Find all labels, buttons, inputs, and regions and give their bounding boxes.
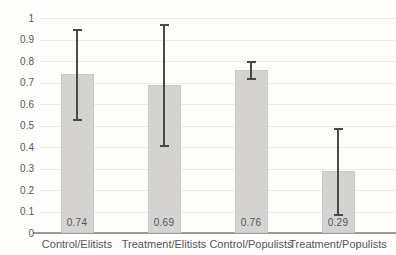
y-tick-label: 0.3 — [0, 163, 34, 174]
bar-chart: 0.740.690.760.29 Control/ElitistsTreatme… — [0, 0, 396, 255]
x-category-label: Control/Populists — [209, 238, 292, 250]
bar-value-label: 0.76 — [241, 217, 262, 228]
y-tick-label: 0.6 — [0, 99, 34, 110]
error-bar-cap-top — [247, 61, 256, 63]
y-tick-label: 1 — [0, 13, 34, 24]
x-category-label: Treatment/Populists — [289, 238, 386, 250]
error-bar-cap-bottom — [247, 78, 256, 80]
y-tick-label: 0.1 — [0, 206, 34, 217]
y-tick-label: 0.7 — [0, 77, 34, 88]
x-category-label: Control/Elitists — [42, 238, 112, 250]
error-bar-cap-top — [160, 24, 169, 26]
bar-value-label: 0.29 — [328, 217, 349, 228]
plot-area: 0.740.690.760.29 — [42, 18, 396, 233]
error-bar-cap-bottom — [73, 119, 82, 121]
gridline — [40, 61, 396, 62]
y-tick-label: 0.5 — [0, 120, 34, 131]
y-tick-label: 0.2 — [0, 185, 34, 196]
gridline — [40, 18, 396, 19]
error-bar — [337, 128, 339, 214]
error-bar-cap-bottom — [334, 214, 343, 216]
y-tick-label: 0.9 — [0, 34, 34, 45]
gridline — [40, 40, 396, 41]
y-tick-label: 0.4 — [0, 142, 34, 153]
error-bar-cap-top — [334, 128, 343, 130]
bar — [235, 70, 268, 233]
bar-value-label: 0.69 — [154, 217, 175, 228]
error-bar — [76, 29, 78, 119]
error-bar — [163, 24, 165, 144]
x-category-label: Treatment/Elitists — [122, 238, 207, 250]
error-bar — [250, 61, 252, 78]
y-tick-label: 0 — [0, 228, 34, 239]
error-bar-cap-top — [73, 29, 82, 31]
error-bar-cap-bottom — [160, 145, 169, 147]
bar-value-label: 0.74 — [67, 217, 88, 228]
y-tick-label: 0.8 — [0, 56, 34, 67]
